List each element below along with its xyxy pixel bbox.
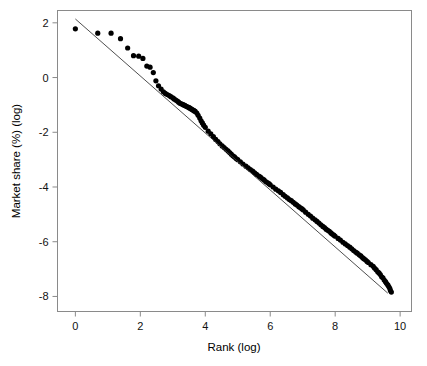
y-tick-label: -8 <box>39 290 49 302</box>
y-tick-label: 0 <box>42 72 48 84</box>
chart-figure: 0246810 20-2-4-6-8 Rank (log) Market sha… <box>0 0 427 366</box>
x-tick-label: 10 <box>394 320 406 332</box>
data-point <box>389 289 394 294</box>
x-tick-label: 4 <box>202 320 208 332</box>
plot-frame <box>58 11 412 312</box>
x-tick-label: 6 <box>267 320 273 332</box>
x-tick-label: 8 <box>332 320 338 332</box>
x-tick-label: 0 <box>72 320 78 332</box>
data-point <box>108 31 113 36</box>
rank-size-scatter-plot: 0246810 20-2-4-6-8 Rank (log) Market sha… <box>0 0 427 366</box>
y-tick-label: -2 <box>39 126 49 138</box>
data-point <box>118 36 123 41</box>
data-point <box>140 56 145 61</box>
y-tick-label: -6 <box>39 236 49 248</box>
data-point <box>73 26 78 31</box>
data-point <box>95 31 100 36</box>
x-tick-label: 2 <box>137 320 143 332</box>
y-tick-label: -4 <box>39 181 49 193</box>
data-point <box>153 78 158 83</box>
y-tick-label: 2 <box>42 17 48 29</box>
data-point <box>147 65 152 70</box>
data-point <box>151 70 156 75</box>
data-point <box>131 53 136 58</box>
data-point <box>125 45 130 50</box>
x-axis-title: Rank (log) <box>207 341 260 353</box>
y-axis-title: Market share (%) (log) <box>10 104 22 219</box>
